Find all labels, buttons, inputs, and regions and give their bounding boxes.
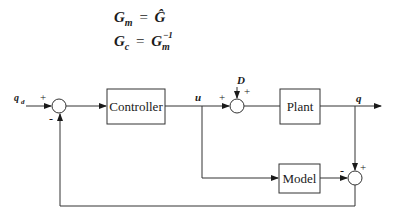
output-label: q (356, 92, 362, 104)
controller-label: Controller (109, 99, 163, 114)
control-signal-label: u (195, 91, 201, 103)
block-diagram: Controller Plant Model q d u D q + - + +… (0, 0, 395, 220)
reference-label: q (14, 92, 19, 103)
sum3-plus-sign: + (360, 161, 366, 173)
sum2-u-plus-sign: + (219, 91, 225, 103)
sum2-d-plus-sign: + (244, 85, 250, 97)
summing-junction-2 (230, 99, 244, 113)
summing-junction-1 (52, 99, 66, 113)
sum1-plus-sign: + (40, 91, 46, 103)
plant-label: Plant (287, 99, 314, 114)
model-label: Model (283, 171, 317, 186)
model-input-line (202, 106, 278, 178)
summing-junction-3 (348, 171, 362, 185)
reference-sub-label: d (21, 98, 25, 106)
sum1-minus-sign: - (49, 112, 53, 126)
sum3-minus-sign: - (340, 164, 344, 178)
feedback-line (60, 114, 355, 206)
